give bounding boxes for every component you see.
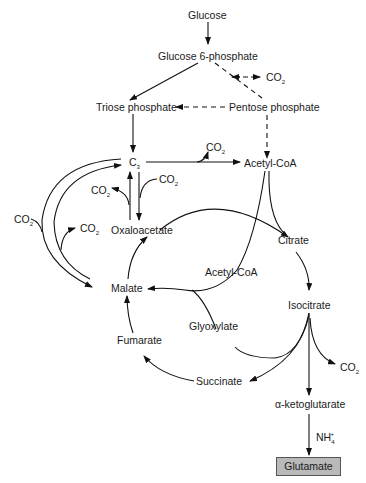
arrow-co2-release-malate <box>61 228 75 250</box>
arrow-g6p-to-triose <box>130 63 198 100</box>
co2-label-oaa-c3: CO2 <box>91 184 110 201</box>
co2-label-malate-c3: CO2 <box>80 222 99 239</box>
arrow-fumarate-to-malate <box>127 296 133 333</box>
node-glutamate: Glutamate <box>276 457 341 476</box>
node-isocitrate: Isocitrate <box>288 299 331 311</box>
node-acetyl-coa-mid: Acetyl-CoA <box>205 266 258 278</box>
arrow-co2-release-isocitrate <box>310 318 335 364</box>
node-c3: C3 <box>129 156 140 173</box>
arrow-g6p-to-pentose <box>215 63 262 98</box>
arrow-malate-to-oaa <box>128 237 147 279</box>
node-glucose: Glucose <box>188 9 227 21</box>
co2-label-pentose: CO2 <box>266 71 285 88</box>
co2-input-c3-to-oaa <box>140 179 157 198</box>
node-succinate: Succinate <box>196 375 242 387</box>
co2-label-c3-acetylcoa: CO2 <box>206 141 225 158</box>
pathway-arrows <box>0 0 366 483</box>
node-fumarate: Fumarate <box>117 334 162 346</box>
node-glyoxylate: Glyoxylate <box>189 320 238 332</box>
co2-label-c3-malate: CO2 <box>14 213 33 230</box>
arrow-succinate-to-fumarate <box>144 356 194 381</box>
node-triose-phosphate: Triose phosphate <box>96 101 177 113</box>
co2-label-isocitrate: CO2 <box>340 361 359 378</box>
arrow-isocitrate-to-glyoxylate <box>235 313 309 358</box>
node-glucose-6-phosphate: Glucose 6-phosphate <box>158 50 258 62</box>
node-acetyl-coa-top: Acetyl-CoA <box>244 157 297 169</box>
arrow-citrate-to-isocitrate <box>296 252 309 290</box>
node-pentose-phosphate: Pentose phosphate <box>229 101 320 113</box>
acetylcoa-joins-citrate <box>269 171 283 232</box>
node-oxaloacetate: Oxaloacetate <box>111 224 173 236</box>
node-alpha-ketoglutarate: α-ketoglutarate <box>275 398 345 410</box>
node-citrate: Citrate <box>278 234 309 246</box>
metabolic-pathway-diagram: Glucose Glucose 6-phosphate CO2 Triose p… <box>0 0 366 483</box>
arrow-co2-release-oaa <box>112 188 129 205</box>
co2-label-c3-oaa: CO2 <box>159 173 178 190</box>
nh4-label: NH4+ <box>316 428 334 448</box>
arrow-isocitrate-to-succinate <box>250 315 309 381</box>
arrow-oaa-to-citrate <box>160 209 288 237</box>
node-malate: Malate <box>111 282 143 294</box>
